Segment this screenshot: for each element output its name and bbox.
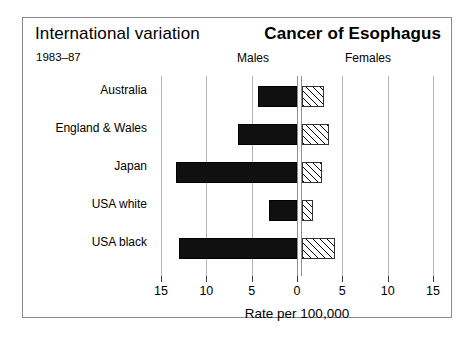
category-label: Japan bbox=[114, 159, 147, 173]
x-axis: 15105051015 Rate per 100,000 bbox=[161, 276, 433, 316]
bar-row bbox=[161, 116, 433, 154]
tick-mark bbox=[161, 276, 162, 282]
category-label: USA white bbox=[92, 197, 147, 211]
bar-female bbox=[302, 162, 322, 183]
tick-mark bbox=[252, 276, 253, 282]
plot-area bbox=[161, 76, 433, 276]
tick-mark bbox=[388, 276, 389, 282]
bar-male bbox=[269, 200, 297, 221]
tick-mark bbox=[342, 276, 343, 282]
bar-female bbox=[302, 200, 313, 221]
tick-label: 5 bbox=[322, 284, 362, 298]
category-label: England & Wales bbox=[55, 121, 147, 135]
tick-label: 10 bbox=[368, 284, 408, 298]
column-heading-females: Females bbox=[333, 51, 403, 65]
chart-title: Cancer of Esophagus bbox=[264, 24, 441, 44]
tick-label: 5 bbox=[232, 284, 272, 298]
tick-mark bbox=[433, 276, 434, 282]
bar-row bbox=[161, 192, 433, 230]
tick-mark bbox=[206, 276, 207, 282]
bar-male bbox=[179, 238, 297, 259]
chart-subtitle: International variation bbox=[35, 24, 200, 44]
bar-male bbox=[258, 86, 297, 107]
category-label: USA black bbox=[92, 235, 147, 249]
tick-label: 10 bbox=[186, 284, 226, 298]
bar-male bbox=[176, 162, 297, 183]
gridline-15 bbox=[433, 76, 434, 276]
bar-female bbox=[302, 86, 324, 107]
tick-label: 0 bbox=[277, 284, 317, 298]
bar-female bbox=[302, 238, 335, 259]
tick-label: 15 bbox=[413, 284, 453, 298]
bar-row bbox=[161, 230, 433, 268]
chart-header: International variation Cancer of Esopha… bbox=[23, 18, 451, 54]
category-label: Australia bbox=[100, 83, 147, 97]
x-axis-label: Rate per 100,000 bbox=[161, 306, 433, 321]
tick-mark bbox=[297, 276, 298, 282]
bar-row bbox=[161, 154, 433, 192]
chart-period-label: 1983–87 bbox=[36, 51, 81, 63]
tick-label: 15 bbox=[141, 284, 181, 298]
chart-frame: International variation Cancer of Esopha… bbox=[22, 17, 452, 318]
bar-row bbox=[161, 78, 433, 116]
bar-male bbox=[238, 124, 297, 145]
column-heading-males: Males bbox=[223, 51, 283, 65]
bar-female bbox=[302, 124, 329, 145]
